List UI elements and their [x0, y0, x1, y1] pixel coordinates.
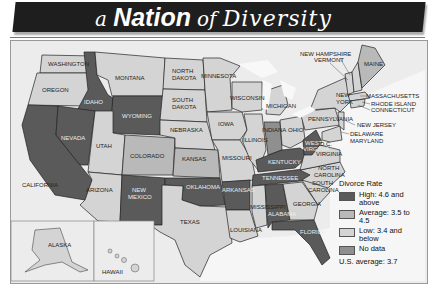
label-idaho: IDAHO	[84, 99, 103, 105]
legend-label-average: Average: 3.5 to 4.5	[359, 209, 419, 225]
label-north-carolina-1: NORTH	[318, 165, 339, 171]
label-wyoming: WYOMING	[122, 113, 152, 119]
legend-swatch-nodata	[339, 246, 355, 255]
label-rhode-island: RHODE ISLAND	[371, 101, 417, 107]
legend-title: Divorce Rate	[339, 180, 419, 188]
label-north-dakota-2: DAKOTA	[172, 75, 196, 81]
label-georgia: GEORGIA	[293, 201, 321, 207]
label-minnesota: MINNESOTA	[201, 73, 236, 79]
label-south-carolina-2: CAROLINA	[308, 187, 339, 193]
label-south-dakota-1: SOUTH	[172, 97, 193, 103]
state-arkansas	[222, 180, 250, 210]
label-colorado: COLORADO	[130, 153, 165, 159]
label-arkansas: ARKANSAS	[222, 187, 255, 193]
label-ohio: OHIO	[288, 127, 304, 133]
state-north-dakota	[163, 58, 205, 90]
legend-item-high: High: 4.6 and above	[339, 191, 419, 207]
label-vermont: VERMONT	[314, 57, 344, 63]
legend-swatch-low	[339, 228, 355, 237]
label-nevada: NEVADA	[61, 135, 85, 141]
legend-item-average: Average: 3.5 to 4.5	[339, 209, 419, 225]
label-massachusetts: MASSACHUSETTS	[366, 93, 419, 99]
label-alabama: ALABAMA	[268, 211, 296, 217]
label-montana: MONTANA	[115, 75, 145, 81]
label-kentucky: KENTUCKY	[268, 159, 301, 165]
label-missouri: MISSOURI	[222, 155, 252, 161]
legend-label-low: Low: 3.4 and below	[359, 227, 419, 243]
label-oregon: OREGON	[42, 87, 69, 93]
label-tennessee: TENNESSEE	[262, 175, 298, 181]
label-texas: TEXAS	[180, 219, 200, 225]
label-north-dakota-1: NORTH	[172, 68, 193, 74]
label-maine: MAINE	[364, 61, 383, 67]
label-new-hampshire: NEW HAMPSHIRE	[300, 51, 351, 57]
legend-item-nodata: No data	[339, 245, 419, 255]
legend-item-low: Low: 3.4 and below	[339, 227, 419, 243]
label-north-carolina-2: CAROLINA	[314, 172, 345, 178]
label-south-carolina-1: SOUTH	[312, 180, 333, 186]
label-mississippi: MISSISSIPPI	[250, 204, 286, 210]
label-arizona: ARIZONA	[86, 187, 113, 193]
label-washington: WASHINGTON	[48, 61, 89, 67]
label-dc: D.C.	[320, 141, 332, 147]
label-california: CALIFORNIA	[22, 182, 58, 188]
label-hawaii: HAWAII	[102, 269, 123, 275]
label-wisconsin: WISCONSIN	[230, 95, 265, 101]
label-nebraska: NEBRASKA	[170, 127, 203, 133]
label-new-mexico-1: NEW	[132, 187, 146, 193]
legend-swatch-average	[339, 210, 355, 219]
legend-label-nodata: No data	[359, 245, 385, 253]
legend-us-average: U.S. average: 3.7	[339, 258, 419, 266]
label-michigan: MICHIGAN	[266, 103, 296, 109]
label-florida: FLORIDA	[300, 229, 326, 235]
label-delaware: DELAWARE	[350, 131, 383, 137]
state-kansas	[173, 148, 220, 178]
label-connecticut: CONNECTICUT	[371, 107, 415, 113]
label-new-jersey: NEW JERSEY	[357, 122, 396, 128]
label-alaska: ALASKA	[48, 242, 71, 248]
label-illinois: ILLINOIS	[243, 137, 268, 143]
label-indiana: INDIANA	[262, 127, 286, 133]
label-new-york-2: YORK	[336, 99, 353, 105]
legend-label-high: High: 4.6 and above	[359, 191, 419, 207]
label-kansas: KANSAS	[182, 156, 206, 162]
label-south-dakota-2: DAKOTA	[172, 104, 196, 110]
label-new-york-1: NEW	[336, 92, 350, 98]
label-new-mexico-2: MEXICO	[128, 194, 152, 200]
label-maryland: MARYLAND	[350, 138, 384, 144]
label-iowa: IOWA	[218, 121, 234, 127]
legend-swatch-high	[339, 192, 355, 201]
state-new-mexico	[120, 175, 165, 225]
map-legend: Divorce Rate High: 4.6 and above Average…	[339, 180, 419, 266]
label-utah: UTAH	[96, 143, 112, 149]
label-oklahoma: OKLAHOMA	[186, 184, 220, 190]
label-louisiana: LOUISIANA	[230, 227, 262, 233]
